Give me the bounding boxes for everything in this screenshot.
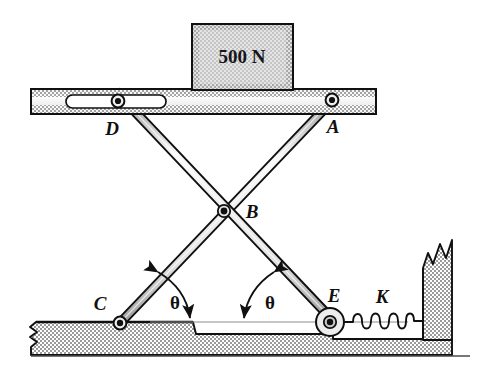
ground-body: [30, 322, 452, 355]
point-labels: D A B C E K θ θ: [94, 116, 390, 314]
label-k: K: [375, 286, 390, 307]
slider-d-core: [115, 98, 121, 104]
spring-k: [341, 314, 423, 329]
label-a: A: [326, 116, 340, 137]
top-platform: [31, 89, 376, 114]
label-theta-left: θ: [170, 292, 180, 313]
label-b: B: [245, 201, 259, 222]
load-label: 500 N: [219, 46, 266, 67]
spring-coils: [353, 314, 414, 329]
right-wall: [423, 240, 452, 340]
pin-a-core: [329, 97, 335, 103]
pin-c-core: [117, 320, 123, 326]
label-theta-right: θ: [265, 292, 275, 313]
label-c: C: [94, 293, 107, 314]
pin-b-core: [221, 208, 228, 215]
figure-canvas: 500 N: [0, 0, 487, 379]
scissor-lift-figure: 500 N: [0, 0, 487, 379]
label-e: E: [327, 285, 341, 306]
load-block: 500 N: [192, 24, 293, 90]
roller-e-core: [327, 319, 333, 325]
label-d: D: [104, 118, 119, 139]
wall-body: [423, 240, 452, 340]
